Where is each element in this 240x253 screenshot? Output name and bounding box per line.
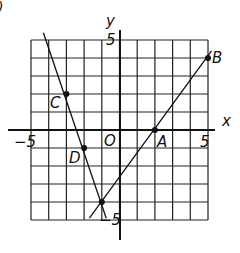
point-intersection bbox=[99, 199, 105, 205]
y-axis-label: y bbox=[105, 12, 116, 30]
point-a-label: A bbox=[156, 133, 167, 151]
point-b bbox=[205, 55, 211, 61]
coordinate-plane: ) x y −5 5 5 −5 O A B C D bbox=[0, 0, 240, 253]
point-d-label: D bbox=[69, 149, 81, 167]
line-cd bbox=[43, 33, 106, 218]
point-d bbox=[81, 145, 87, 151]
point-b-label: B bbox=[212, 49, 222, 67]
corner-mark: ) bbox=[0, 0, 3, 15]
x-tick-5: 5 bbox=[200, 133, 210, 151]
point-c-label: C bbox=[50, 94, 61, 112]
x-axis-label: x bbox=[221, 112, 231, 130]
y-tick-neg5: −5 bbox=[99, 211, 121, 229]
origin-label: O bbox=[104, 132, 116, 150]
y-tick-5: 5 bbox=[106, 31, 116, 49]
point-c bbox=[63, 91, 69, 97]
x-tick-neg5: −5 bbox=[14, 133, 36, 151]
